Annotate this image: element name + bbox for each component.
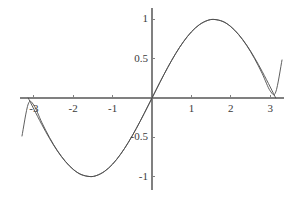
plot-canvas: [0, 0, 298, 198]
y-tick-label: -1: [96, 171, 148, 182]
axes-group: [20, 8, 284, 190]
plot-figure: -3-2-1123 -1-0.50.51: [0, 0, 298, 198]
x-tick-label: -3: [19, 103, 49, 114]
x-tick-label: 3: [255, 103, 285, 114]
x-tick-label: -2: [58, 103, 88, 114]
x-tick-label: -1: [98, 103, 128, 114]
y-tick-label: -0.5: [96, 131, 148, 142]
x-tick-label: 1: [176, 103, 206, 114]
y-tick-label: 0.5: [96, 53, 148, 64]
y-tick-label: 1: [96, 13, 148, 24]
x-tick-label: 2: [216, 103, 246, 114]
